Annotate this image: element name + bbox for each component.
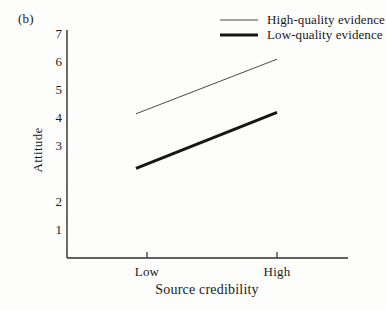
legend-label-high-quality-evidence: High-quality evidence — [260, 12, 385, 28]
y-tick-label-2: 2 — [46, 194, 62, 210]
y-tick-label-1: 1 — [46, 222, 62, 238]
y-tick-label-7: 7 — [46, 26, 62, 42]
series-line-high-quality-evidence — [136, 59, 277, 114]
legend-label-low-quality-evidence: Low-quality evidence — [260, 27, 383, 43]
legend-entry-low-quality-evidence: Low-quality evidence — [218, 27, 385, 42]
legend-entry-high-quality-evidence: High-quality evidence — [218, 12, 385, 27]
y-tick-label-3: 3 — [46, 138, 62, 154]
y-tick-label-6: 6 — [46, 54, 62, 70]
figure-panel: (b) 7 6 5 4 3 2 1 Low High Attitude Sour… — [0, 0, 386, 310]
legend: High-quality evidence Low-quality eviden… — [218, 12, 385, 42]
y-tick-label-4: 4 — [46, 110, 62, 126]
plot-area — [0, 0, 386, 310]
legend-line-swatch-thin-icon — [218, 15, 260, 24]
y-tick-label-5: 5 — [46, 82, 62, 98]
legend-line-swatch-thick-icon — [218, 30, 260, 39]
x-tick-label-low: Low — [135, 264, 159, 280]
x-tick-label-high: High — [264, 264, 291, 280]
x-axis-title: Source credibility — [155, 282, 259, 298]
series-line-low-quality-evidence — [136, 112, 277, 168]
y-axis-title: Attitude — [30, 127, 46, 172]
